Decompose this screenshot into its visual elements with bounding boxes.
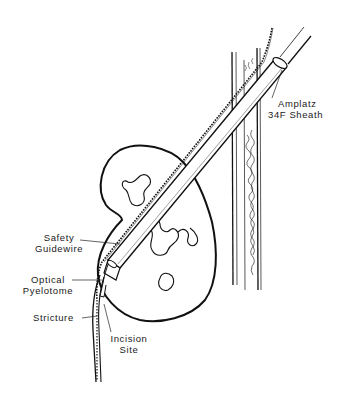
label-incision-line2: Site — [104, 344, 154, 355]
label-optical-pyelotome: Optical Pyelotome — [18, 274, 78, 296]
label-stricture-line1: Stricture — [33, 312, 74, 323]
label-optical-line2: Pyelotome — [18, 285, 78, 296]
label-amplatz-line1: Amplatz — [268, 98, 323, 109]
label-safety-line2: Guidewire — [30, 243, 88, 254]
label-incision-line1: Incision — [104, 333, 154, 344]
label-safety-guidewire: Safety Guidewire — [30, 232, 88, 254]
label-incision-site: Incision Site — [104, 333, 154, 355]
label-stricture: Stricture — [33, 312, 74, 323]
diagram-canvas — [0, 0, 352, 399]
label-amplatz-sheath: Amplatz 34F Sheath — [268, 98, 323, 120]
label-safety-line1: Safety — [30, 232, 88, 243]
label-amplatz-line2: 34F Sheath — [268, 109, 323, 120]
label-optical-line1: Optical — [18, 274, 78, 285]
